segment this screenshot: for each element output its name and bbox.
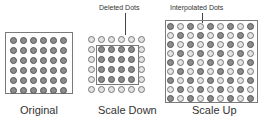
interpolated-dot	[167, 68, 174, 75]
interpolated-dot	[167, 86, 174, 93]
deleted-dot	[138, 76, 145, 83]
original-dot	[40, 37, 47, 44]
original-dot	[227, 41, 234, 48]
original-dot	[20, 57, 27, 64]
deleted-dot	[88, 66, 95, 73]
original-dot	[217, 32, 224, 39]
interpolated-dot	[177, 59, 184, 66]
original-dot	[227, 95, 234, 102]
original-dot	[60, 87, 67, 94]
interpolated-dot	[207, 68, 214, 75]
original-dot	[60, 77, 67, 84]
original-dot	[60, 37, 67, 44]
deleted-dot	[108, 36, 115, 43]
original-dot	[50, 37, 57, 44]
original-dot	[187, 95, 194, 102]
interpolated-dot	[187, 86, 194, 93]
deleted-dot	[88, 36, 95, 43]
original-dot	[10, 37, 17, 44]
original-dot	[247, 77, 254, 84]
scale-down-frame	[96, 45, 139, 85]
original-dot	[60, 57, 67, 64]
deleted-dot	[88, 46, 95, 53]
original-dot	[20, 77, 27, 84]
interpolated-dot	[177, 77, 184, 84]
original-dot	[187, 59, 194, 66]
interpolated-dot	[227, 68, 234, 75]
original-dot	[40, 67, 47, 74]
interpolated-dot	[227, 32, 234, 39]
original-caption: Original	[20, 104, 58, 116]
interpolated-dot	[187, 68, 194, 75]
scale-up-caption: Scale Up	[192, 104, 237, 116]
interpolated-dot	[227, 86, 234, 93]
original-dot	[40, 57, 47, 64]
interpolated-dot	[167, 50, 174, 57]
interpolated-dot	[247, 68, 254, 75]
original-dot	[207, 77, 214, 84]
original-dot	[10, 67, 17, 74]
deleted-dot	[98, 36, 105, 43]
interpolated-dot	[247, 32, 254, 39]
original-dot	[50, 77, 57, 84]
original-dot	[177, 68, 184, 75]
scale-down-caption: Scale Down	[98, 104, 157, 116]
deleted-dot	[138, 86, 145, 93]
deleted-dot	[108, 86, 115, 93]
interpolated-dot	[177, 23, 184, 30]
interpolated-dot	[217, 41, 224, 48]
deleted-dot	[98, 86, 105, 93]
original-dot	[207, 23, 214, 30]
original-dot	[247, 95, 254, 102]
original-dot	[30, 47, 37, 54]
interpolated-dot	[237, 41, 244, 48]
original-dot	[20, 67, 27, 74]
original-dot	[167, 77, 174, 84]
original-dot	[50, 67, 57, 74]
interpolated-dot	[197, 77, 204, 84]
original-dot	[237, 32, 244, 39]
original-dot	[50, 87, 57, 94]
interpolated-dot	[247, 50, 254, 57]
original-dot	[237, 68, 244, 75]
interpolated-dot	[217, 59, 224, 66]
interpolated-dot	[177, 95, 184, 102]
original-dot	[217, 68, 224, 75]
original-dot	[247, 23, 254, 30]
original-dot	[177, 86, 184, 93]
deleted-dot	[128, 36, 135, 43]
original-dot	[10, 87, 17, 94]
original-dot	[30, 87, 37, 94]
original-dot	[187, 41, 194, 48]
original-dot	[167, 59, 174, 66]
original-dot	[30, 77, 37, 84]
original-dot	[207, 95, 214, 102]
original-dot	[40, 47, 47, 54]
original-dot	[197, 86, 204, 93]
original-dot	[207, 41, 214, 48]
original-dot	[247, 41, 254, 48]
original-dot	[227, 23, 234, 30]
original-dot	[40, 87, 47, 94]
scale-up-dot-grid	[167, 23, 257, 104]
deleted-dot	[138, 46, 145, 53]
deleted-dot	[88, 86, 95, 93]
original-dot	[227, 77, 234, 84]
interpolated-dot	[247, 86, 254, 93]
original-dot	[167, 95, 174, 102]
deleted-dot	[138, 56, 145, 63]
original-dot	[20, 37, 27, 44]
original-dot	[197, 68, 204, 75]
original-dot	[40, 77, 47, 84]
interpolated-dot	[207, 50, 214, 57]
deleted-dot	[88, 56, 95, 63]
original-dot	[187, 23, 194, 30]
original-dot	[167, 41, 174, 48]
original-dot	[237, 86, 244, 93]
original-dot	[197, 50, 204, 57]
interpolated-dot	[167, 32, 174, 39]
original-dot	[237, 50, 244, 57]
original-dot	[20, 47, 27, 54]
original-dot	[50, 57, 57, 64]
deleted-dot	[118, 36, 125, 43]
